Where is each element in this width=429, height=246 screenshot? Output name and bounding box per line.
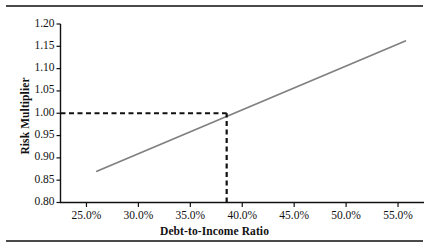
y-axis-tick-label: 0.85 — [21, 173, 55, 185]
y-axis-tick-label: 0.90 — [21, 150, 55, 162]
y-axis-tick-label: 1.05 — [21, 83, 55, 95]
y-axis-tick-label: 0.80 — [21, 195, 55, 207]
data-series-line — [97, 41, 405, 171]
figure-container: Risk Multiplier Debt-to-Income Ratio 1.2… — [0, 0, 429, 246]
x-axis-tick-label: 55.0% — [368, 209, 428, 221]
y-axis-tick-label: 1.10 — [21, 61, 55, 73]
y-axis-tick-label: 0.95 — [21, 128, 55, 140]
y-axis-tick-label: 1.20 — [21, 17, 55, 29]
y-axis-tick-label: 1.00 — [21, 106, 55, 118]
x-axis-title: Debt-to-Income Ratio — [0, 225, 429, 237]
y-axis-tick-label: 1.15 — [21, 39, 55, 51]
data-series-group — [97, 41, 405, 171]
